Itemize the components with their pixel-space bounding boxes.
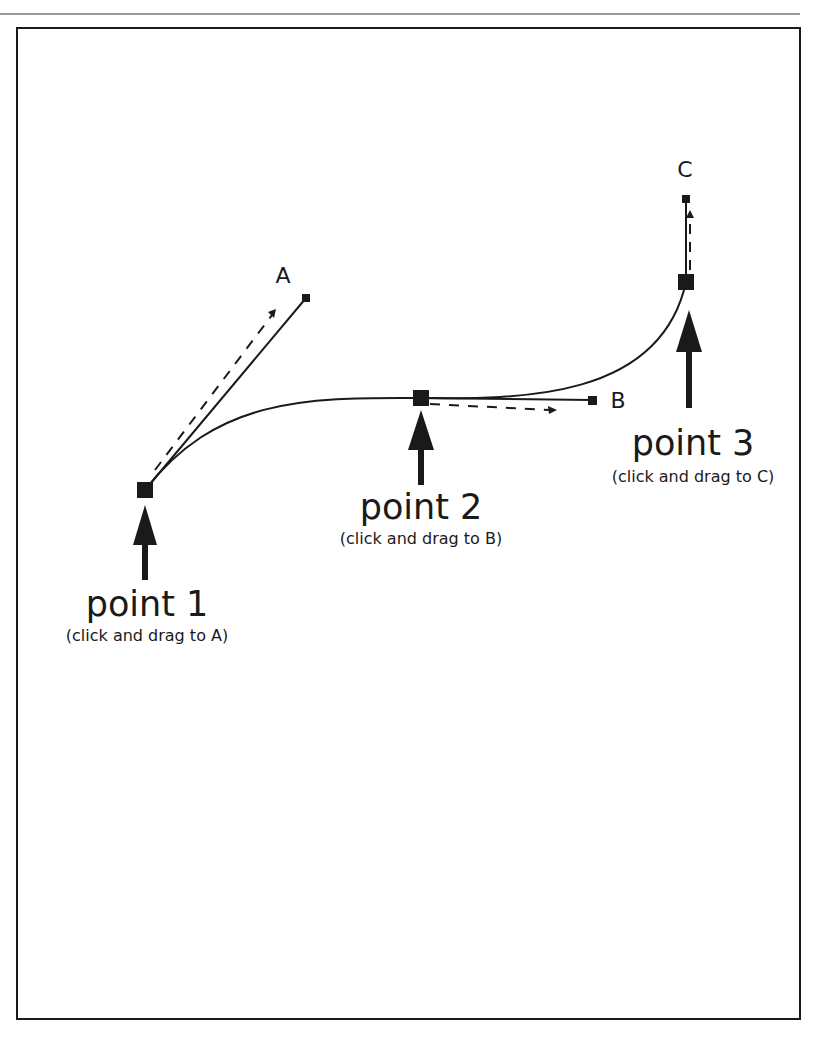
drag-arrow-a (155, 315, 272, 470)
bezier-curve (145, 282, 686, 490)
anchor-point-3 (678, 274, 694, 290)
handle-label-a: A (275, 264, 290, 288)
pointer-arrow-2 (408, 410, 434, 485)
arrowhead-icon (548, 406, 557, 414)
point-2-title: point 2 (360, 488, 483, 526)
arrowhead-icon (686, 210, 694, 218)
anchor-point-2 (413, 390, 429, 406)
pointer-arrow-1 (133, 505, 157, 580)
drag-arrow-b (430, 404, 550, 410)
handle-end-c (682, 195, 690, 203)
handle-label-b: B (610, 389, 625, 413)
point-1-title: point 1 (86, 585, 209, 623)
handle-end-b (588, 396, 597, 405)
handle-end-a (302, 294, 310, 302)
point-3-instruction: (click and drag to C) (612, 467, 775, 487)
point-2-instruction: (click and drag to B) (340, 529, 502, 549)
point-3-title: point 3 (632, 424, 755, 462)
anchor-point-1 (137, 482, 153, 498)
pointer-arrow-3 (676, 310, 702, 408)
handle-label-c: C (677, 158, 692, 182)
handle-line-a (145, 298, 306, 490)
point-1-instruction: (click and drag to A) (66, 626, 228, 646)
handle-line-b (421, 398, 592, 400)
